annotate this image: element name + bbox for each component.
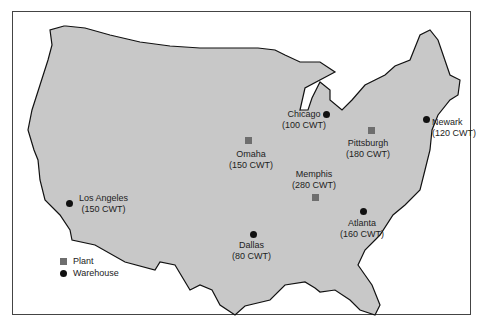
newark-label: Newark(120 CWT): [432, 117, 476, 139]
omaha-plant-marker[interactable]: [245, 137, 252, 144]
legend-plant: Plant: [60, 255, 119, 267]
legend-warehouse-label: Warehouse: [73, 268, 119, 278]
memphis-plant-marker[interactable]: [312, 194, 319, 201]
memphis-label: Memphis(280 CWT): [292, 169, 336, 191]
los-angeles-warehouse-marker[interactable]: [66, 200, 73, 207]
dallas-warehouse-marker[interactable]: [250, 231, 257, 238]
atlanta-label: Atlanta(160 CWT): [340, 218, 384, 240]
atlanta-warehouse-marker[interactable]: [360, 208, 367, 215]
legend-warehouse: Warehouse: [60, 267, 119, 279]
chicago-label: Chicago(100 CWT): [282, 109, 326, 131]
map-legend: Plant Warehouse: [60, 255, 119, 279]
los-angeles-label: Los Angeles(150 CWT): [79, 193, 128, 215]
legend-plant-label: Plant: [73, 256, 94, 266]
pittsburgh-label: Pittsburgh(180 CWT): [346, 138, 390, 160]
dallas-label: Dallas(80 CWT): [232, 240, 271, 262]
pittsburgh-plant-marker[interactable]: [368, 127, 375, 134]
omaha-label: Omaha(150 CWT): [229, 149, 273, 171]
plant-square-icon: [60, 258, 67, 265]
warehouse-dot-icon: [60, 270, 67, 277]
newark-warehouse-marker[interactable]: [423, 116, 430, 123]
